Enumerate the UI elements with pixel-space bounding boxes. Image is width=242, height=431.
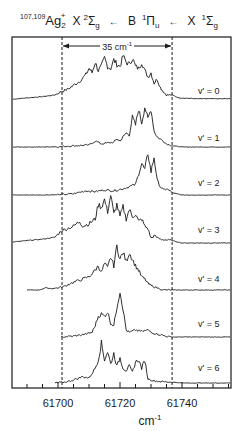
- arrowhead-left-icon: [63, 44, 69, 49]
- annotation-label: 35 cm-1: [102, 41, 133, 52]
- trace-label-v4: v' = 4: [198, 274, 219, 284]
- spectrum-trace-v5: [61, 293, 230, 337]
- x-axis-label-exponent: -1: [154, 413, 162, 422]
- tick-label-61700: 61700: [43, 397, 74, 409]
- width-annotation: 35 cm-1: [63, 41, 171, 52]
- tick-label-61740: 61740: [167, 397, 198, 409]
- trace-label-v3: v' = 3: [198, 225, 219, 235]
- x-axis-tick-labels: 617006172061740: [43, 397, 198, 409]
- trace-labels: v' = 0v' = 1v' = 2v' = 3v' = 4v' = 5v' =…: [198, 86, 219, 373]
- x-axis-label-unit: cm: [138, 414, 154, 428]
- spectral-traces: [13, 56, 230, 384]
- x-axis-label: cm-1: [138, 413, 162, 428]
- spectrum-trace-v2: [13, 155, 230, 196]
- arrowhead-right-icon: [165, 44, 171, 49]
- tick-label-61720: 61720: [105, 397, 136, 409]
- trace-label-v2: v' = 2: [198, 178, 219, 188]
- trace-label-v1: v' = 1: [198, 133, 219, 143]
- trace-label-v5: v' = 5: [198, 319, 219, 329]
- trace-label-v0: v' = 0: [198, 86, 219, 96]
- trace-label-v6: v' = 6: [198, 363, 219, 373]
- dashed-guides: [62, 37, 172, 388]
- spectra-plot: 35 cm-1 v' = 0v' = 1v' = 2v' = 3v' = 4v'…: [0, 0, 242, 431]
- spectrum-trace-v6: [55, 340, 230, 383]
- spectrum-trace-v3: [13, 196, 230, 244]
